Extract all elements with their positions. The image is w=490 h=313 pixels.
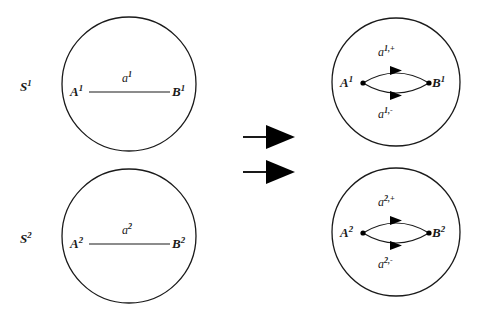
vertex-dot-a-right-bottom (360, 230, 365, 235)
node-label-b-left-bottom: B2 (172, 236, 185, 250)
edge-label-lower-right-bottom: a2,- (378, 257, 393, 270)
oriented-edge-upper-right-bottom (363, 223, 429, 233)
transform-arrow-top (243, 125, 295, 149)
vertex-dot-b-right-top (426, 80, 431, 85)
oriented-edge-lower-right-top (363, 83, 429, 93)
node-label-a-left-top: A1 (70, 84, 83, 98)
edge-label-left-bottom: a2 (122, 223, 132, 236)
transform-arrow-bottom-head (266, 160, 295, 184)
edge-label-left-top: a1 (122, 71, 132, 84)
figure-canvas: S1 S2 A1 B1 a1 A2 B2 a2 A1 B1 a1,+ a1,- … (0, 0, 490, 313)
node-label-a-right-bottom: A2 (340, 225, 353, 239)
vertex-dot-b-right-bottom (426, 230, 431, 235)
transform-arrow-top-head (266, 125, 295, 149)
sphere-name-s2: S2 (20, 231, 32, 245)
node-label-a-right-top: A1 (340, 75, 353, 89)
edge-label-upper-right-top: a1,+ (378, 45, 395, 58)
node-label-a-left-bottom: A2 (70, 236, 83, 250)
node-label-b-left-top: B1 (172, 84, 185, 98)
edge-label-lower-right-top: a1,- (378, 107, 393, 120)
sphere-name-s1: S1 (20, 79, 32, 93)
node-label-b-right-top: B1 (432, 75, 445, 89)
node-label-b-right-bottom: B2 (432, 225, 445, 239)
oriented-edge-lower-right-bottom (363, 233, 429, 243)
diagram-vector-layer (0, 0, 490, 313)
transform-arrow-bottom (243, 160, 295, 184)
edge-label-upper-right-bottom: a2,+ (378, 195, 395, 208)
vertex-dot-a-right-top (360, 80, 365, 85)
oriented-edge-upper-right-top (363, 73, 429, 83)
